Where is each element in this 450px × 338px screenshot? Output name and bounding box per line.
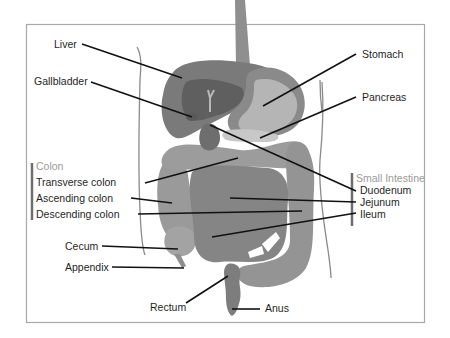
digestive-system-diagram: Colon Small Intestine Liver Gallbladder … (0, 0, 450, 338)
pancreas-label: Pancreas (362, 91, 406, 103)
liver-label: Liver (54, 38, 77, 50)
colon-group-label: Colon (36, 160, 64, 172)
descending-colon-label: Descending colon (36, 208, 120, 220)
rectum-leader (186, 276, 228, 303)
appendix-label: Appendix (65, 261, 110, 273)
duodenum-label: Duodenum (360, 184, 412, 196)
transverse-colon-label: Transverse colon (36, 176, 116, 188)
liver-leader (82, 44, 182, 78)
rectum-label: Rectum (150, 301, 186, 313)
torso-outline-left (137, 47, 145, 255)
gallbladder-label: Gallbladder (34, 75, 88, 87)
jejunum-label: Jejunum (360, 196, 400, 208)
rectum-shape (224, 264, 241, 316)
ascending-colon-label: Ascending colon (36, 192, 113, 204)
appendix-shape (174, 254, 186, 268)
stomach-label: Stomach (362, 48, 404, 60)
anus-label: Anus (265, 302, 289, 314)
ileum-label: Ileum (360, 208, 386, 220)
appendix-leader (112, 267, 184, 268)
cecum-shape (164, 226, 196, 256)
small-intestine-shape (190, 166, 289, 263)
small-intestine-group-label: Small Intestine (356, 172, 425, 184)
cecum-label: Cecum (65, 240, 99, 252)
